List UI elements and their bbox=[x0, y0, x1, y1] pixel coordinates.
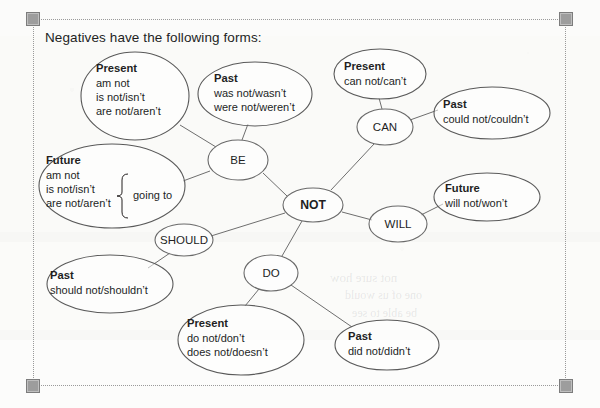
node-label: CAN bbox=[373, 121, 397, 133]
resize-handle-bottom-left[interactable] bbox=[26, 379, 40, 393]
node-form-line: could not/couldn’t bbox=[443, 113, 529, 125]
node-be[interactable]: BE bbox=[208, 140, 268, 180]
node-form-line: are not/aren’t bbox=[46, 197, 111, 209]
node-can-present[interactable]: Presentcan not/can’t bbox=[334, 49, 426, 99]
node-not[interactable]: NOT bbox=[283, 188, 343, 222]
node-heading: Past bbox=[50, 269, 74, 281]
node-form-line: can not/can’t bbox=[344, 75, 406, 87]
node-heading: Present bbox=[187, 317, 228, 329]
resize-handle-bottom-right[interactable] bbox=[559, 379, 573, 393]
node-heading: Present bbox=[96, 62, 137, 74]
node-form-line: is not/isn’t bbox=[46, 183, 95, 195]
node-can[interactable]: CAN bbox=[357, 109, 413, 145]
edge-not-to-do bbox=[282, 221, 302, 256]
node-will[interactable]: WILL bbox=[369, 206, 427, 242]
brace-label: going to bbox=[133, 189, 172, 201]
node-outline bbox=[334, 49, 426, 99]
node-be-future[interactable]: Futuream notis not/isn’tare not/aren’tgo… bbox=[39, 144, 185, 228]
node-should-past[interactable]: Pastshould not/shouldn’t bbox=[47, 255, 173, 313]
node-do-past[interactable]: Pastdid not/didn’t bbox=[335, 320, 439, 370]
node-label: BE bbox=[230, 154, 246, 166]
node-will-future[interactable]: Futurewill not/won’t bbox=[434, 173, 540, 221]
node-form-line: am not bbox=[46, 169, 80, 181]
edge-be-to-be-past bbox=[242, 124, 248, 140]
node-should[interactable]: SHOULD bbox=[155, 224, 213, 256]
node-form-line: will not/won’t bbox=[444, 197, 507, 209]
diagram-page: not sure how one of us would be able to … bbox=[0, 0, 600, 408]
node-heading: Past bbox=[443, 98, 467, 110]
node-form-line: was not/wasn’t bbox=[213, 87, 286, 99]
edge-not-to-can bbox=[331, 144, 374, 190]
negatives-mind-map: Presentam notis not/isn’tare not/aren’tP… bbox=[0, 0, 600, 408]
node-label: SHOULD bbox=[160, 234, 208, 246]
resize-handle-top-right[interactable] bbox=[559, 12, 573, 26]
edge-do-to-do-present bbox=[245, 289, 259, 306]
hub-node-layer: BECANWILLSHOULDDONOT bbox=[155, 109, 427, 291]
node-can-past[interactable]: Pastcould not/couldn’t bbox=[434, 87, 550, 139]
node-heading: Past bbox=[348, 330, 372, 342]
edge-be-to-be-future bbox=[183, 171, 210, 181]
edge-do-to-do-past bbox=[291, 285, 352, 327]
node-form-line: does not/doesn’t bbox=[187, 346, 268, 358]
resize-handle-top-left[interactable] bbox=[26, 12, 40, 26]
edge-not-to-be bbox=[263, 173, 287, 196]
node-do-present[interactable]: Presentdo not/don’tdoes not/doesn’t bbox=[178, 305, 304, 375]
node-do[interactable]: DO bbox=[244, 255, 298, 291]
node-form-line: did not/didn’t bbox=[348, 345, 410, 357]
node-label: DO bbox=[262, 267, 279, 279]
edge-be-to-be-present bbox=[180, 125, 216, 147]
node-form-line: were not/weren’t bbox=[213, 101, 295, 113]
node-heading: Past bbox=[214, 72, 238, 84]
edge-can-to-can-present bbox=[379, 98, 382, 109]
node-form-line: do not/don’t bbox=[187, 332, 245, 344]
edge-not-to-will bbox=[342, 212, 372, 220]
node-label: NOT bbox=[300, 198, 326, 212]
node-be-past[interactable]: Pastwas not/wasn’twere not/weren’t bbox=[198, 62, 312, 126]
node-label: WILL bbox=[385, 218, 412, 230]
node-heading: Present bbox=[344, 60, 385, 72]
node-be-present[interactable]: Presentam notis not/isn’tare not/aren’t bbox=[81, 52, 189, 140]
node-heading: Future bbox=[445, 182, 480, 194]
node-heading: Future bbox=[46, 154, 81, 166]
edge-not-to-should bbox=[211, 213, 285, 236]
node-form-line: is not/isn’t bbox=[96, 91, 145, 103]
node-form-line: am not bbox=[96, 77, 130, 89]
node-form-line: are not/aren’t bbox=[96, 105, 161, 117]
node-form-line: should not/shouldn’t bbox=[50, 284, 148, 296]
